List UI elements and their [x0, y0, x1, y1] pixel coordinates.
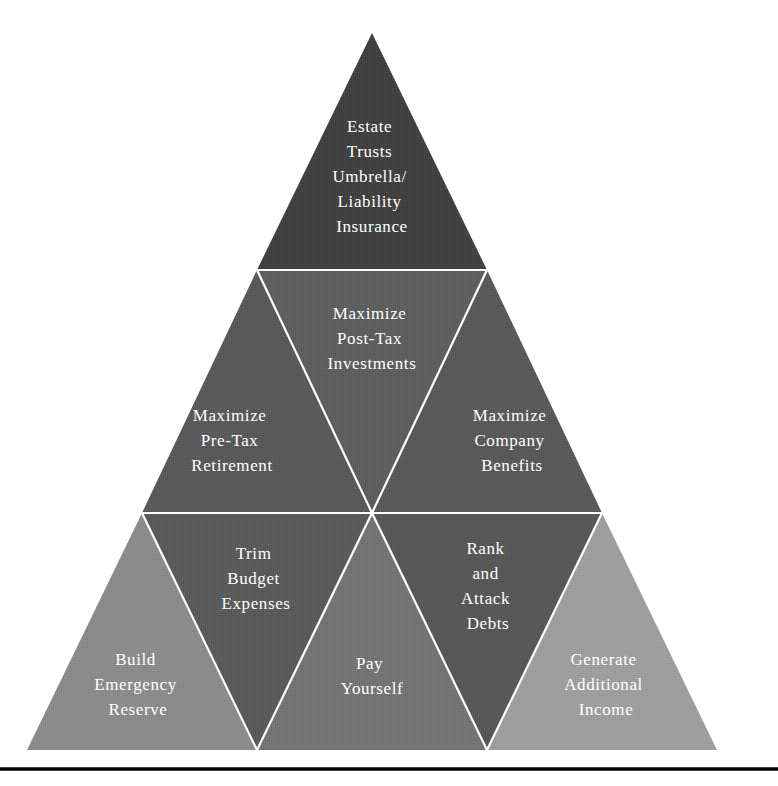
label-maximize-post-tax-investments: Maximize Post-Tax Investments	[328, 304, 417, 373]
pyramid-diagram: Estate Trusts Umbrella/ Liability Insura…	[0, 0, 778, 786]
tier-middle: Maximize Post-Tax Investments Maximize P…	[142, 270, 602, 513]
tier-top: Estate Trusts Umbrella/ Liability Insura…	[257, 33, 487, 270]
tier-bottom: Trim Budget Expenses Rank and Attack Deb…	[27, 513, 717, 750]
pyramid-svg: Estate Trusts Umbrella/ Liability Insura…	[0, 0, 778, 786]
label-maximize-pre-tax-retirement: Maximize Pre-Tax Retirement	[191, 406, 273, 475]
label-maximize-company-benefits: Maximize Company Benefits	[473, 406, 552, 475]
